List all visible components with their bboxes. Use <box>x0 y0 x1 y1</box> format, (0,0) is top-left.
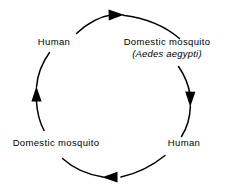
node-label-mosquito-top-text: Domestic mosquito <box>124 36 211 47</box>
node-label-human-top-text: Human <box>38 36 70 47</box>
node-label-human-bottom: Human <box>154 137 214 149</box>
node-label-mosquito-top-scientific-name: (Aedes aegypti) <box>117 48 217 60</box>
transmission-cycle-diagram: Human Domestic mosquito (Aedes aegypti) … <box>0 0 226 193</box>
node-label-human-top: Human <box>24 36 84 48</box>
arc-right-arrow-to-human-bottom <box>182 106 191 137</box>
node-label-mosquito-top: Domestic mosquito (Aedes aegypti) <box>117 36 217 59</box>
arc-human-bottom-to-bottom-arrow <box>121 156 165 178</box>
arc-left-arrow-to-human-top <box>37 53 50 88</box>
arc-human-top-to-top-arrow <box>77 15 114 34</box>
arc-top-arrow-to-mosquito-top <box>123 15 180 38</box>
arc-mosquito-bottom-to-left-arrow <box>36 101 44 131</box>
node-label-mosquito-bottom-text: Domestic mosquito <box>13 137 100 148</box>
arc-bottom-arrow-to-mosquito-bottom <box>63 159 104 178</box>
node-label-mosquito-bottom: Domestic mosquito <box>6 137 106 149</box>
arrowhead-bottom-icon <box>102 172 118 183</box>
node-label-human-bottom-text: Human <box>168 137 200 148</box>
arrowhead-left-icon <box>31 86 41 101</box>
arrowhead-top-icon <box>109 10 125 21</box>
arrowhead-right-icon <box>185 92 195 108</box>
arc-mosquito-top-to-right-arrow <box>179 67 191 97</box>
cycle-arcs-and-arrowheads <box>0 0 226 193</box>
